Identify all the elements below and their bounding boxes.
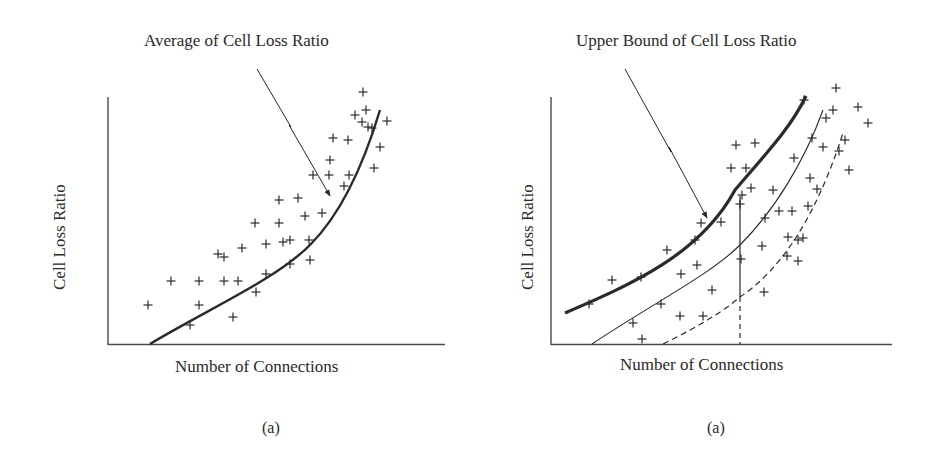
scatter-points-left <box>144 88 392 330</box>
annotation-arrow-right <box>625 69 707 218</box>
annotation-arrow-left <box>257 69 330 196</box>
lower-curve-dashed <box>663 133 843 344</box>
x-axis-label-left: Number of Connections <box>175 357 338 376</box>
figure: Average of Cell Loss Ratio Cell Loss Rat… <box>0 0 933 463</box>
caption-right: (a) <box>707 419 725 437</box>
panel-left-title: Average of Cell Loss Ratio <box>144 31 329 50</box>
y-axis-label-right: Cell Loss Ratio <box>518 184 537 290</box>
x-axis-label-right: Number of Connections <box>620 355 783 374</box>
panel-right: Upper Bound of Cell Loss Ratio Cell Loss… <box>518 31 892 437</box>
upper-bound-curve <box>565 96 806 313</box>
panel-right-title: Upper Bound of Cell Loss Ratio <box>576 31 797 50</box>
average-curve-left <box>150 110 380 344</box>
y-axis-label-left: Cell Loss Ratio <box>50 184 69 290</box>
panel-left: Average of Cell Loss Ratio Cell Loss Rat… <box>50 31 445 437</box>
scatter-points-right <box>585 84 873 344</box>
caption-left: (a) <box>262 419 280 437</box>
